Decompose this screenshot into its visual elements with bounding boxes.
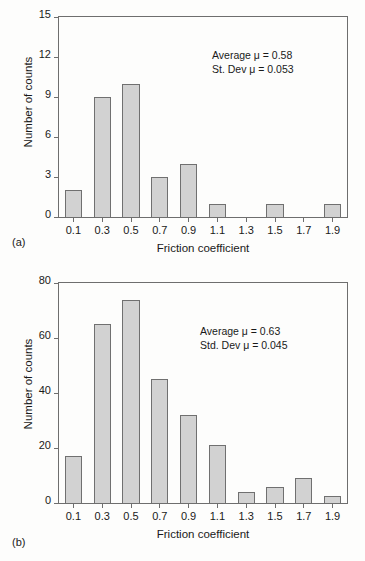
y-tick-mark xyxy=(54,503,59,504)
x-tick-mark xyxy=(275,217,276,222)
x-tick-mark xyxy=(303,217,304,222)
panel-b: Number of counts Friction coefficient 02… xyxy=(0,272,365,561)
bar xyxy=(151,379,168,503)
x-tick-label: 1.5 xyxy=(267,511,282,522)
statistics-annotation-b: Average μ = 0.63 Std. Dev μ = 0.045 xyxy=(200,324,287,352)
x-tick-mark xyxy=(332,217,333,222)
x-tick-label: 1.1 xyxy=(210,511,225,522)
y-tick-mark xyxy=(54,283,59,284)
bar xyxy=(65,456,82,503)
x-tick-label: 0.3 xyxy=(95,225,110,236)
panel-a: Number of counts Friction coefficient 03… xyxy=(0,0,365,272)
bar xyxy=(324,496,341,503)
x-tick-label: 0.1 xyxy=(66,225,81,236)
y-tick-mark xyxy=(54,338,59,339)
y-axis-label-a: Number of counts xyxy=(22,52,34,152)
bar xyxy=(238,492,255,503)
panel-tag-b: (b) xyxy=(12,536,25,548)
x-tick-label: 1.7 xyxy=(296,511,311,522)
x-tick-mark xyxy=(188,503,189,508)
y-tick-mark xyxy=(54,97,59,98)
x-tick-mark xyxy=(246,217,247,222)
y-tick-label: 20 xyxy=(39,440,51,451)
x-tick-mark xyxy=(246,503,247,508)
bar xyxy=(266,487,283,504)
x-tick-mark xyxy=(303,503,304,508)
bar xyxy=(94,97,111,217)
x-tick-label: 0.1 xyxy=(66,511,81,522)
histogram-figure: Number of counts Friction coefficient 03… xyxy=(0,0,365,561)
x-axis-label-b: Friction coefficient xyxy=(58,528,348,540)
x-tick-mark xyxy=(332,503,333,508)
x-tick-mark xyxy=(159,503,160,508)
x-tick-mark xyxy=(102,217,103,222)
x-tick-mark xyxy=(131,503,132,508)
annotation-line-average-a: Average μ = 0.58 xyxy=(212,48,294,62)
bar xyxy=(295,478,312,503)
bar xyxy=(324,204,341,217)
y-axis-label-b: Number of counts xyxy=(22,334,34,434)
bar xyxy=(180,415,197,503)
annotation-line-stddev-a: St. Dev μ = 0.053 xyxy=(212,62,294,76)
y-tick-label: 3 xyxy=(45,169,51,180)
bar xyxy=(180,164,197,217)
statistics-annotation-a: Average μ = 0.58 St. Dev μ = 0.053 xyxy=(212,48,294,76)
bar xyxy=(151,177,168,217)
x-tick-mark xyxy=(73,503,74,508)
x-tick-label: 0.9 xyxy=(181,225,196,236)
y-tick-label: 6 xyxy=(45,129,51,140)
y-tick-label: 9 xyxy=(45,89,51,100)
x-axis-label-a: Friction coefficient xyxy=(58,242,348,254)
x-tick-label: 0.5 xyxy=(123,225,138,236)
x-tick-label: 1.9 xyxy=(325,511,340,522)
x-tick-label: 0.3 xyxy=(95,511,110,522)
bar xyxy=(266,204,283,217)
y-tick-label: 40 xyxy=(39,385,51,396)
x-tick-mark xyxy=(188,217,189,222)
y-tick-label: 0 xyxy=(45,209,51,220)
x-tick-label: 1.7 xyxy=(296,225,311,236)
annotation-line-average-b: Average μ = 0.63 xyxy=(200,324,287,338)
plot-area-b: 020406080 0.10.30.50.70.91.11.31.51.71.9 xyxy=(58,282,348,504)
x-tick-mark xyxy=(217,503,218,508)
y-tick-label: 15 xyxy=(39,9,51,20)
panel-tag-a: (a) xyxy=(12,236,25,248)
y-tick-mark xyxy=(54,448,59,449)
y-tick-label: 12 xyxy=(39,49,51,60)
x-tick-mark xyxy=(131,217,132,222)
x-tick-mark xyxy=(102,503,103,508)
x-tick-label: 1.9 xyxy=(325,225,340,236)
x-tick-label: 0.7 xyxy=(152,225,167,236)
plot-area-a: 03691215 0.10.30.50.70.91.11.31.51.71.9 xyxy=(58,16,348,218)
x-tick-label: 1.1 xyxy=(210,225,225,236)
y-tick-mark xyxy=(54,137,59,138)
annotation-line-stddev-b: Std. Dev μ = 0.045 xyxy=(200,338,287,352)
y-tick-mark xyxy=(54,393,59,394)
bar xyxy=(122,84,139,217)
x-tick-label: 0.7 xyxy=(152,511,167,522)
x-tick-mark xyxy=(159,217,160,222)
bar-series-a xyxy=(59,17,347,217)
bar xyxy=(122,300,139,504)
y-tick-mark xyxy=(54,217,59,218)
x-tick-label: 1.5 xyxy=(267,225,282,236)
x-tick-label: 1.3 xyxy=(239,225,254,236)
bar xyxy=(65,190,82,217)
bar xyxy=(94,324,111,503)
x-tick-mark xyxy=(73,217,74,222)
bar-series-b xyxy=(59,283,347,503)
y-tick-label: 80 xyxy=(39,275,51,286)
y-tick-label: 0 xyxy=(45,495,51,506)
bar xyxy=(209,445,226,503)
y-tick-label: 60 xyxy=(39,330,51,341)
x-tick-label: 0.5 xyxy=(123,511,138,522)
x-tick-mark xyxy=(217,217,218,222)
y-tick-mark xyxy=(54,57,59,58)
x-tick-label: 1.3 xyxy=(239,511,254,522)
x-tick-label: 0.9 xyxy=(181,511,196,522)
y-tick-mark xyxy=(54,177,59,178)
x-tick-mark xyxy=(275,503,276,508)
y-tick-mark xyxy=(54,17,59,18)
bar xyxy=(209,204,226,217)
